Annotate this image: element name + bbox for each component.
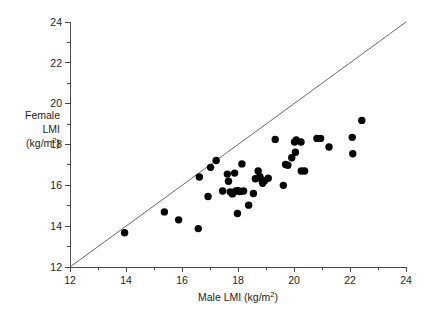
y-tick-label: 24 <box>50 16 62 28</box>
data-point <box>224 170 231 177</box>
data-point <box>195 225 202 232</box>
data-point <box>225 178 232 185</box>
identity-reference-line <box>70 22 406 267</box>
data-point <box>175 216 182 223</box>
y-tick-label: 12 <box>50 261 62 273</box>
chart-canvas: Female LMI (kg/m2) Male LMI (kg/m2) 1214… <box>0 0 426 313</box>
data-point <box>204 193 211 200</box>
data-point <box>358 117 365 124</box>
x-tick-label: 18 <box>232 274 244 286</box>
data-point <box>238 160 245 167</box>
data-point <box>245 201 252 208</box>
data-points-group <box>121 117 366 237</box>
y-tick-label: 22 <box>50 57 62 69</box>
x-tick-label: 22 <box>344 274 356 286</box>
identity-line <box>70 22 406 267</box>
y-tick-label: 20 <box>50 97 62 109</box>
x-tick-label: 16 <box>176 274 188 286</box>
x-tick-labels-group: 12141618202224 <box>64 274 412 286</box>
data-point <box>231 169 238 176</box>
data-point <box>292 149 299 156</box>
y-tick-label: 16 <box>50 179 62 191</box>
x-tick-label: 14 <box>120 274 132 286</box>
data-point <box>240 187 247 194</box>
data-point <box>219 187 226 194</box>
x-tick-label: 20 <box>288 274 300 286</box>
data-point <box>349 134 356 141</box>
x-axis-title: Male LMI (kg/m2) <box>198 290 278 304</box>
y-tick-label: 14 <box>50 220 62 232</box>
y-tick-labels-group: 12141618202224 <box>50 16 62 273</box>
data-point <box>301 167 308 174</box>
data-point <box>212 157 219 164</box>
data-point <box>349 150 356 157</box>
data-point <box>234 210 241 217</box>
y-axis-title-line2: LMI <box>42 123 60 135</box>
data-point <box>196 173 203 180</box>
data-point <box>121 229 128 236</box>
data-point <box>325 143 332 150</box>
data-point <box>250 190 257 197</box>
y-tick-label: 18 <box>50 138 62 150</box>
data-point <box>280 182 287 189</box>
data-point <box>265 174 272 181</box>
x-tick-label: 12 <box>64 274 76 286</box>
data-point <box>297 138 304 145</box>
y-axis-title-line1: Female <box>25 109 60 121</box>
x-tick-label: 24 <box>400 274 412 286</box>
data-point <box>207 164 214 171</box>
data-point <box>284 162 291 169</box>
data-point <box>161 208 168 215</box>
scatter-plot-figure: Female LMI (kg/m2) Male LMI (kg/m2) 1214… <box>0 0 426 313</box>
data-point <box>317 135 324 142</box>
data-point <box>272 136 279 143</box>
